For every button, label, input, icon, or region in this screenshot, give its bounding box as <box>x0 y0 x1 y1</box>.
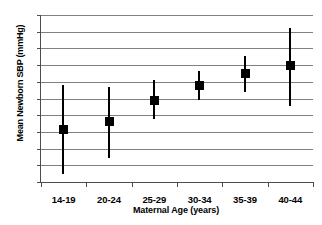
y-tick-mark <box>37 65 41 66</box>
y-tick-mark <box>37 149 41 150</box>
y-tick-mark <box>37 48 41 49</box>
y-tick-mark <box>37 165 41 166</box>
y-tick-mark <box>37 15 41 16</box>
gridline <box>41 99 313 100</box>
gridline <box>41 65 313 66</box>
gridline <box>41 115 313 116</box>
y-tick-mark <box>37 132 41 133</box>
data-point-marker <box>241 69 250 78</box>
x-tick-label: 40-44 <box>260 194 320 205</box>
gridline <box>41 149 313 150</box>
gridline <box>41 32 313 33</box>
plot-area: 6768697071727374757677 14-1920-2425-2930… <box>40 15 313 182</box>
x-tick-mark <box>222 182 223 187</box>
gridline <box>41 132 313 133</box>
y-axis-title: Mean Newborn SBP (mmHg) <box>15 0 25 171</box>
x-tick-mark <box>86 182 87 187</box>
data-point-marker <box>105 117 114 126</box>
x-tick-mark <box>41 182 42 187</box>
x-tick-mark <box>177 182 178 187</box>
gridline <box>41 48 313 49</box>
data-point-marker <box>286 61 295 70</box>
y-tick-mark <box>37 32 41 33</box>
y-tick-mark <box>37 82 41 83</box>
gridline <box>41 15 313 16</box>
x-axis-title: Maternal Age (years) <box>40 205 312 215</box>
y-tick-mark <box>37 115 41 116</box>
error-bar-chart: Mean Newborn SBP (mmHg) Maternal Age (ye… <box>0 0 322 225</box>
gridline <box>41 82 313 83</box>
x-tick-mark <box>132 182 133 187</box>
y-tick-mark <box>37 99 41 100</box>
data-point-marker <box>59 125 68 134</box>
x-tick-mark <box>313 182 314 187</box>
x-tick-mark <box>268 182 269 187</box>
data-point-marker <box>150 96 159 105</box>
gridline <box>41 165 313 166</box>
data-point-marker <box>195 81 204 90</box>
